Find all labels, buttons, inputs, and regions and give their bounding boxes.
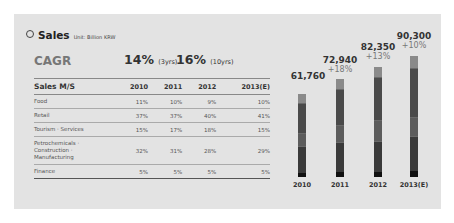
col-header: Sales M/S — [34, 79, 114, 95]
cagr-10yr: 16% (10yrs) — [176, 52, 234, 67]
cell: 11% — [114, 95, 148, 109]
bar-growth-2012: +13% — [348, 52, 408, 61]
table-row: Retail 37% 37% 40% 41% — [34, 109, 270, 123]
table-row: Finance 5% 5% 5% 5% — [34, 165, 270, 179]
market-share-table: Sales M/S 2010 2011 2012 2013(E) Food 11… — [34, 78, 270, 179]
bar-segment — [410, 171, 418, 177]
bar-segment — [336, 79, 344, 89]
cagr-3yr: 14% (3yrs) — [124, 52, 177, 67]
col-header: 2011 — [148, 79, 182, 95]
col-header: 2012 — [182, 79, 216, 95]
cell: 31% — [148, 137, 182, 165]
bar-segment — [336, 89, 344, 125]
row-label: Finance — [34, 165, 114, 179]
bar-segment — [298, 94, 306, 103]
x-label-2013: 2013(E) — [394, 181, 434, 189]
cell: 10% — [216, 95, 270, 109]
bar-segment — [298, 173, 306, 177]
bullet-circle-icon — [26, 30, 34, 38]
col-header: 2010 — [114, 79, 148, 95]
x-label-2011: 2011 — [320, 181, 360, 189]
bar-growth-2011: +18% — [310, 65, 370, 74]
bar-segment — [374, 120, 382, 140]
stacked-bar-2011 — [336, 79, 344, 177]
row-label: Retail — [34, 109, 114, 123]
bar-segment — [410, 136, 418, 171]
cell: 15% — [216, 123, 270, 137]
cell: 37% — [148, 109, 182, 123]
bar-segment — [374, 67, 382, 77]
x-label-2012: 2012 — [358, 181, 398, 189]
bar-segment — [336, 172, 344, 177]
cell: 37% — [114, 109, 148, 123]
cagr-10yr-value: 16% — [176, 52, 206, 67]
stacked-bar-2013(E) — [410, 56, 418, 177]
row-label: Tourism · Services — [34, 123, 114, 137]
bar-segment — [336, 142, 344, 172]
table-row: Petrochemicals · Construction · Manufact… — [34, 137, 270, 165]
cell: 18% — [182, 123, 216, 137]
cell: 5% — [182, 165, 216, 179]
bar-segment — [298, 103, 306, 134]
bar-segment — [298, 146, 306, 173]
cell: 17% — [148, 123, 182, 137]
cagr-3yr-note: (3yrs) — [158, 58, 177, 66]
bar-segment — [410, 68, 418, 117]
bar-segment — [374, 77, 382, 121]
stacked-bar-2012 — [374, 67, 382, 177]
bar-growth-2013: +10% — [384, 41, 444, 50]
cagr-10yr-note: (10yrs) — [210, 58, 233, 66]
bar-segment — [410, 117, 418, 136]
cell: 29% — [216, 137, 270, 165]
cell: 9% — [182, 95, 216, 109]
section-title: Sales — [38, 29, 70, 41]
cagr-label: CAGR — [34, 54, 71, 68]
cell: 32% — [114, 137, 148, 165]
table-row: Food 11% 10% 9% 10% — [34, 95, 270, 109]
col-header: 2013(E) — [216, 79, 270, 95]
bar-value-2013: 90,300 — [384, 31, 444, 41]
bar-segment — [374, 172, 382, 177]
stacked-bar-2010 — [298, 94, 306, 177]
table-row: Tourism · Services 15% 17% 18% 15% — [34, 123, 270, 137]
cell: 40% — [182, 109, 216, 123]
cell: 10% — [148, 95, 182, 109]
table-header-row: Sales M/S 2010 2011 2012 2013(E) — [34, 79, 270, 95]
bar-segment — [410, 56, 418, 68]
cell: 5% — [148, 165, 182, 179]
cell: 15% — [114, 123, 148, 137]
row-label: Food — [34, 95, 114, 109]
unit-label: Unit: Billion KRW — [74, 34, 116, 40]
cell: 41% — [216, 109, 270, 123]
cagr-3yr-value: 14% — [124, 52, 154, 67]
bar-segment — [336, 125, 344, 142]
cell: 5% — [216, 165, 270, 179]
cell: 28% — [182, 137, 216, 165]
cell: 5% — [114, 165, 148, 179]
row-label: Petrochemicals · Construction · Manufact… — [34, 137, 114, 165]
title-row: Sales Unit: Billion KRW — [26, 29, 115, 41]
x-label-2010: 2010 — [282, 181, 322, 189]
bar-segment — [374, 141, 382, 172]
bar-segment — [298, 133, 306, 146]
